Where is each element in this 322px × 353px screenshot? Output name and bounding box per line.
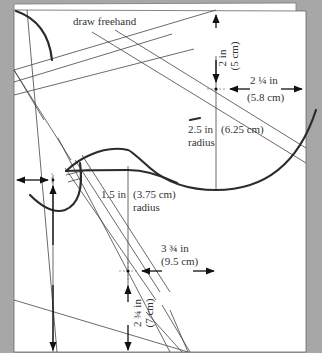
label-lower-vertical-in: 2 ¾ in [131,299,143,327]
label-right-horizontal-in: 2 ¼ in [250,74,278,86]
label-draw-freehand: draw freehand [73,15,137,27]
label-small-radius-in: 1.5 in [101,188,127,200]
label-right-horizontal-cm: (5.8 cm) [247,91,285,104]
label-large-radius-word: radius [188,136,215,148]
label-small-radius-word: radius [133,201,160,213]
label-large-radius-in: 2.5 in [188,123,214,135]
pivot-point-left [52,179,55,182]
pattern-diagram: draw freehand 2 in (5 cm) 2 ¼ in (5.8 cm… [0,0,322,353]
label-lower-vertical-cm: (7 cm) [143,298,156,327]
label-top-vertical-cm: (5 cm) [228,41,241,70]
diagram-canvas: draw freehand 2 in (5 cm) 2 ¼ in (5.8 cm… [0,0,322,353]
pivot-point-upper [214,87,217,90]
label-lower-horizontal-in: 3 ¾ in [161,242,189,254]
label-top-vertical-in: 2 in [216,49,228,66]
pivot-point-lower [126,269,129,272]
label-large-radius-cm: (6.25 cm) [221,123,264,136]
label-lower-horizontal-cm: (9.5 cm) [161,255,199,268]
label-small-radius-cm: (3.75 cm) [133,188,176,201]
